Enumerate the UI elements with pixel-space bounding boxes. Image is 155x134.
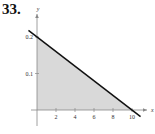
chart: 2468100.10.2xy [0, 0, 155, 134]
y-tick-label: 0.1 [26, 71, 34, 77]
y-tick-label: 0.2 [26, 34, 34, 40]
x-axis-label: x [150, 107, 154, 113]
x-tick-label: 10 [129, 114, 135, 120]
y-axis-label: y [36, 6, 40, 12]
x-tick-label: 6 [93, 114, 96, 120]
x-tick-label: 8 [112, 114, 115, 120]
x-tick-label: 4 [74, 114, 77, 120]
x-tick-label: 2 [55, 114, 58, 120]
y-axis-arrow [35, 14, 39, 18]
x-axis-arrow [143, 108, 147, 112]
